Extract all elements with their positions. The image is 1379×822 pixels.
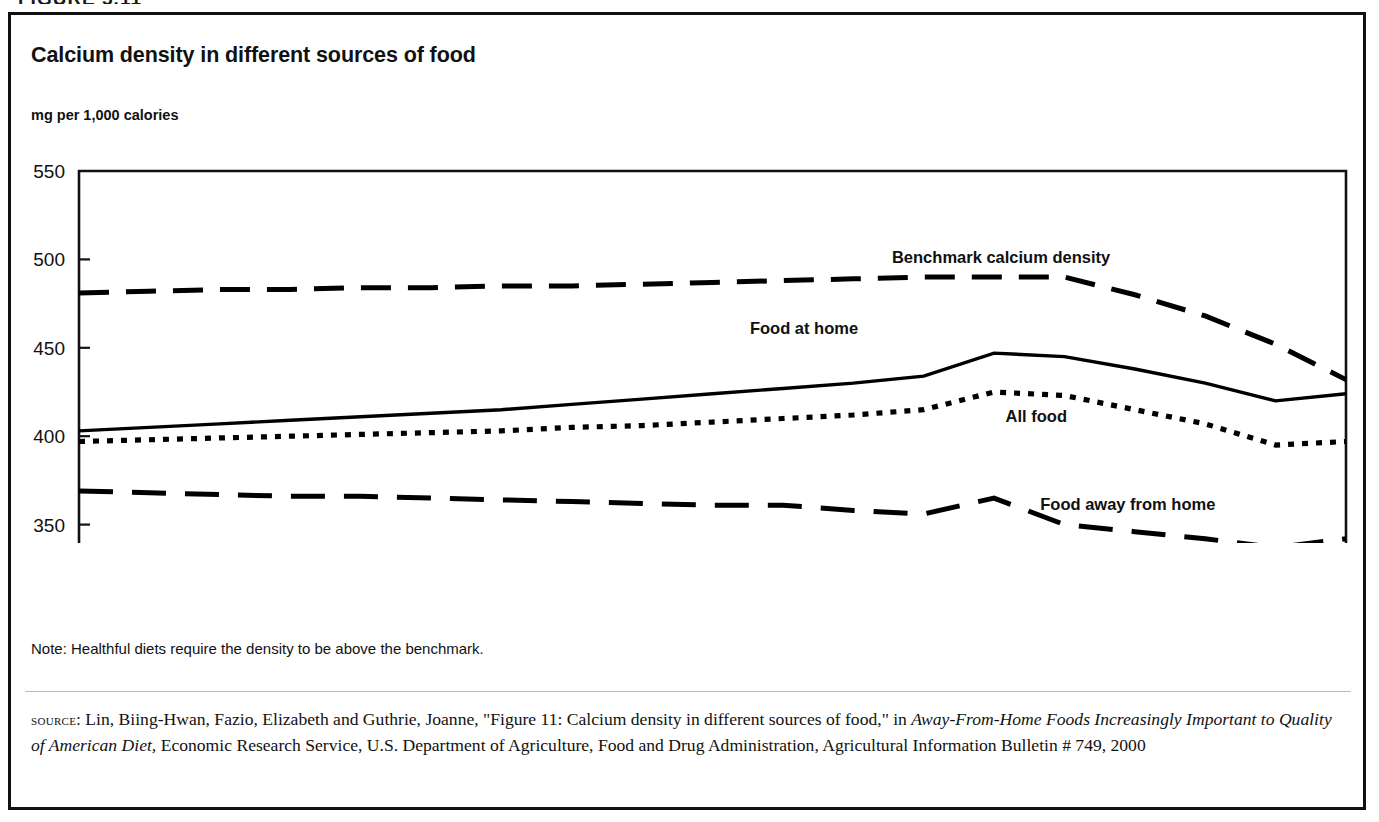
y-axis-units-label: mg per 1,000 calories — [31, 107, 179, 123]
series-label: Food at home — [750, 319, 858, 337]
series-label: Food away from home — [1040, 495, 1215, 513]
figure-page: FIGURE 5.11 Calcium density in different… — [0, 0, 1379, 822]
series-line — [79, 277, 1346, 380]
plot-frame — [79, 171, 1346, 543]
series-label: All food — [1006, 407, 1067, 425]
y-axis-tick-label: 500 — [33, 249, 65, 270]
series-label: Benchmark calcium density — [892, 248, 1111, 266]
clipped-figure-heading: FIGURE 5.11 — [18, 0, 278, 4]
y-axis-tick-label: 450 — [33, 338, 65, 359]
chart-note: Note: Healthful diets require the densit… — [31, 640, 484, 657]
source-part-2: Economic Research Service, U.S. Departme… — [156, 735, 1145, 755]
series-line — [79, 392, 1346, 445]
source-citation: source: Lin, Biing-Hwan, Fazio, Elizabet… — [31, 707, 1343, 759]
line-chart: 30035040045050055077878990919495YearBenc… — [11, 143, 1363, 543]
series-line — [79, 353, 1346, 431]
source-part-1: Lin, Biing-Hwan, Fazio, Elizabeth and Gu… — [81, 709, 911, 729]
figure-container: Calcium density in different sources of … — [8, 12, 1366, 810]
note-source-divider — [25, 691, 1351, 692]
page-title: Calcium density in different sources of … — [31, 43, 476, 68]
y-axis-tick-label: 400 — [33, 426, 65, 447]
y-axis-tick-label: 550 — [33, 161, 65, 182]
source-label: source: — [31, 711, 81, 728]
chart-svg: 30035040045050055077878990919495YearBenc… — [11, 143, 1363, 543]
y-axis-tick-label: 350 — [33, 515, 65, 536]
